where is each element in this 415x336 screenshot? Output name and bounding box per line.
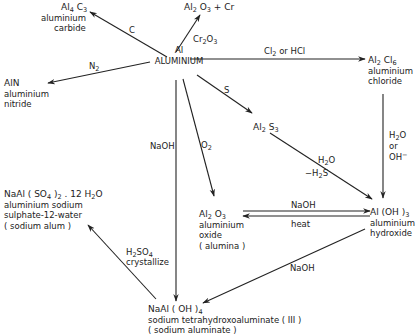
oxide-name-1: aluminium bbox=[199, 220, 245, 231]
node-sodium-alum: NaAl ( SO4 )2 . 12 H2O aluminium sodium … bbox=[4, 189, 103, 231]
reagent-crystallize: crystallize bbox=[126, 257, 169, 267]
aluminium-name: ALUMINIUM bbox=[149, 56, 209, 67]
hydroxide-name-2: hydroxide bbox=[370, 228, 415, 239]
aluminate-name-2: ( sodium aluminate ) bbox=[148, 325, 301, 336]
node-aluminium-carbide: Al4 C3 aluminium carbide bbox=[60, 2, 87, 34]
reagent-naoh-diagonal: NaOH bbox=[290, 263, 315, 273]
arrow-sulfide-to-hydroxide bbox=[270, 133, 372, 199]
alum-name-3: ( sodium alum ) bbox=[4, 221, 103, 232]
hydroxide-formula: Al (OH )3 bbox=[370, 207, 415, 218]
node-aluminium: Al ALUMINIUM bbox=[149, 45, 209, 66]
reagent-n2: N2 bbox=[89, 61, 100, 71]
arrow-to-oxide bbox=[183, 79, 214, 196]
reagent-minus-h2s: −H2S bbox=[305, 168, 328, 178]
node-aluminium-sulfide: Al2 S3 bbox=[253, 122, 279, 133]
node-sodium-aluminate: NaAl ( OH )4 sodium tetrahydroxoaluminat… bbox=[148, 304, 301, 336]
oxide-name-2: oxide bbox=[199, 230, 245, 241]
alum-name-1: aluminium sodium bbox=[4, 200, 103, 211]
nitride-formula: AlN bbox=[4, 78, 49, 89]
node-aluminium-hydroxide: Al (OH )3 aluminium hydroxide bbox=[370, 207, 415, 239]
node-al2o3-cr: Al2 O3 + Cr bbox=[184, 2, 234, 13]
aluminate-name-1: sodium tetrahydroxoaluminate ( III ) bbox=[148, 315, 301, 326]
alum-formula: NaAl ( SO4 )2 . 12 H2O bbox=[4, 189, 103, 200]
chloride-formula: Al2 Cl6 bbox=[368, 55, 413, 66]
oxide-name-3: ( alumina ) bbox=[199, 241, 245, 252]
carbide-name-1: aluminium bbox=[41, 13, 87, 24]
aluminate-formula: NaAl ( OH )4 bbox=[148, 304, 301, 315]
alum-name-2: sulphate-12-water bbox=[4, 210, 103, 221]
node-aluminium-oxide: Al2 O3 aluminium oxide ( alumina ) bbox=[199, 209, 245, 251]
chloride-name-2: chloride bbox=[368, 76, 413, 87]
oxide-formula: Al2 O3 bbox=[199, 209, 245, 220]
aluminium-formula: Al bbox=[149, 45, 209, 56]
reagent-cl2-hcl: Cl2 or HCl bbox=[264, 46, 305, 56]
reagent-h2o-or-oh: H2OorOH− bbox=[389, 130, 408, 163]
sulfide-formula: Al2 S3 bbox=[253, 122, 279, 133]
reagent-s: S bbox=[224, 85, 229, 95]
reagent-heat: heat bbox=[291, 219, 310, 229]
nitride-name-1: aluminium bbox=[4, 89, 49, 100]
node-aluminium-chloride: Al2 Cl6 aluminium chloride bbox=[368, 55, 413, 87]
carbide-formula: Al4 C3 bbox=[60, 2, 87, 13]
reagent-c: C bbox=[129, 25, 135, 35]
reagent-h2o: H2O bbox=[318, 155, 335, 165]
al2o3-cr-formula: Al2 O3 + Cr bbox=[184, 2, 234, 13]
nitride-name-2: nitride bbox=[4, 99, 49, 110]
hydroxide-name-1: aluminium bbox=[370, 218, 415, 229]
reagent-naoh-forward: NaOH bbox=[291, 200, 316, 210]
reagent-h2so4: H2SO4 bbox=[126, 247, 153, 257]
reagent-cr2o3: Cr2O3 bbox=[193, 34, 217, 44]
node-aluminium-nitride: AlN aluminium nitride bbox=[4, 78, 49, 110]
chloride-name-1: aluminium bbox=[368, 66, 413, 77]
reagent-o2: O2 bbox=[201, 140, 212, 150]
carbide-name-2: carbide bbox=[54, 23, 87, 34]
reagent-naoh-down: NaOH bbox=[150, 141, 175, 151]
